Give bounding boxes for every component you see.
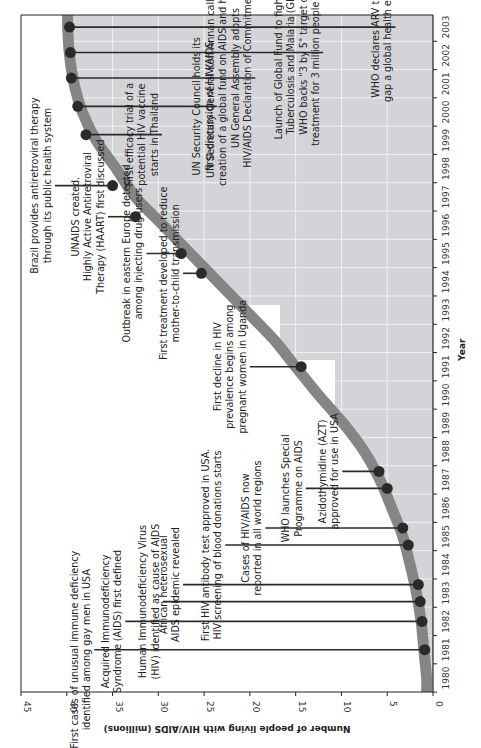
event-label-line: WHO backs "3 by 5" target or ARV (298, 0, 309, 135)
event-label-line: reported in all world regions (252, 460, 263, 595)
year-tick-label: 1992 (441, 327, 451, 350)
year-tick-label: 1994 (441, 270, 451, 293)
event-label-line: prevalence begins among (224, 305, 235, 429)
event-dot (65, 47, 76, 58)
value-tick-label: 10 (342, 701, 352, 713)
value-tick-label: 20 (251, 701, 261, 713)
event-label-line: potential HIV vaccine (136, 83, 147, 185)
year-axis-title: Year (457, 338, 467, 362)
event-label-line: WHO launches Special (280, 434, 291, 542)
event-label-line: through its public health system (42, 108, 53, 263)
event-dot (81, 129, 92, 140)
event-dot (72, 101, 83, 112)
event-label-line: First treatment developed to reduce (158, 187, 169, 360)
value-tick-label: 25 (205, 701, 215, 712)
event-label-line: First decline in HIV (212, 322, 223, 412)
event-label-line: Tuberculosis and Malaria (GFATM). (285, 0, 296, 135)
year-tick-label: 1990 (441, 383, 451, 406)
event-label-line: First HIV antibody test approved in USA. (200, 449, 211, 641)
event-label: Acquired ImmunodeficiencySyndrome (AIDS)… (100, 550, 124, 693)
year-tick-label: 1997 (441, 185, 451, 208)
event-label-line: Programme on AIDS (293, 440, 304, 537)
event-label-line: Cases of HIV/AIDS now (240, 473, 251, 583)
event-dot (176, 248, 187, 259)
year-tick-label: 1984 (441, 553, 451, 576)
event-dot (64, 22, 75, 33)
event-label: First cases of unusual immune deficiency… (69, 550, 93, 748)
event-label-line: among injecting drug users (133, 188, 144, 320)
event-label-line: Acquired Immunodeficiency (100, 554, 111, 688)
event-label-line: approved for use in USA (329, 413, 340, 530)
event-dot (415, 596, 426, 607)
event-label-line: First cases of unusual immune deficiency (69, 550, 80, 748)
event-label: Launch of Global Fund to fight AIDS,Tube… (273, 0, 322, 146)
event-label: Azidothymidine (AZT)approved for use in … (317, 413, 341, 530)
event-label: African heterosexualAIDS epidemic reveal… (158, 527, 182, 642)
event-label-line: Outbreak in eastern Europe detected (121, 164, 132, 342)
event-dot (397, 523, 408, 534)
event-label-line: starts in Thailand (149, 93, 160, 176)
value-tick-label: 40 (68, 701, 78, 713)
event-dot (130, 211, 141, 222)
event-label-line: Launch of Global Fund to fight AIDS, (273, 0, 284, 139)
event-label-line: Highly Active Antiretroviral (82, 152, 93, 281)
year-tick-label: 1986 (441, 496, 451, 519)
event-dot (382, 483, 393, 494)
value-tick-label: 30 (159, 701, 169, 713)
event-label-line: HIV/AIDS Declaration of Commitment (242, 0, 253, 168)
year-tick-label: 1988 (441, 440, 451, 463)
event-dot (413, 579, 424, 590)
value-tick-label: 35 (114, 701, 124, 712)
year-tick-label: 1999 (441, 129, 451, 152)
event-label-line: mother-to-child transmission (170, 204, 181, 342)
event-label: Cases of HIV/AIDS nowreported in all wor… (240, 460, 264, 595)
event-label-line: HIV screening of blood donations starts (212, 450, 223, 639)
chart-canvas: First cases of unusual immune deficiency… (0, 0, 481, 748)
event-label-line: identified among gay men in USA (81, 569, 92, 731)
event-label-line: UNAIDS created. (70, 177, 81, 257)
year-tick-label: 2002 (441, 44, 451, 67)
year-tick-label: 1987 (441, 468, 451, 491)
event-label-line: AIDS epidemic revealed (170, 527, 181, 642)
year-tick-label: 2001 (441, 72, 451, 95)
year-tick-label: 1996 (441, 213, 451, 236)
year-tick-label: 1983 (441, 582, 451, 605)
event-dot (419, 644, 430, 655)
event-label-line: First efficacy trial of a (124, 83, 135, 187)
value-axis-title: Number of people living with HIV/AIDS (m… (104, 724, 351, 734)
year-tick-label: 1995 (441, 242, 451, 265)
value-tick-label: 45 (22, 701, 32, 712)
year-tick-label: 1991 (441, 355, 451, 378)
value-tick-label: 5 (388, 701, 398, 707)
event-dot (107, 180, 118, 191)
event-dot (403, 539, 414, 550)
event-label-line: Syndrome (AIDS) first defined (112, 550, 123, 693)
event-label: Outbreak in eastern Europe detectedamong… (121, 164, 145, 342)
value-tick-label: 0 (434, 701, 444, 707)
event-dot (66, 73, 77, 84)
hiv-aids-timeline-chart: First cases of unusual immune deficiency… (0, 0, 481, 748)
event-label-line: pregnant women in Uganda (237, 300, 248, 434)
year-tick-label: 1993 (441, 299, 451, 322)
event-label-line: Therapy (HAART) first discussed (95, 140, 106, 295)
event-label: First HIV antibody test approved in USA.… (200, 449, 224, 641)
year-tick-label: 2003 (441, 16, 451, 39)
event-label-line: UN General Assembly adopts (230, 8, 241, 148)
event-label: Brazil provides antiretroviral therapyth… (29, 97, 53, 274)
year-tick-label: 1981 (441, 638, 451, 661)
event-label-line: Azidothymidine (AZT) (317, 419, 328, 523)
event-label: First treatment developed to reducemothe… (158, 187, 182, 360)
event-dot (373, 466, 384, 477)
value-tick-label: 15 (297, 701, 307, 712)
event-label: WHO launches SpecialProgramme on AIDS (280, 434, 304, 542)
year-tick-label: 1980 (441, 666, 451, 689)
event-label-line: Human Immunodeficiency Virus (137, 525, 148, 678)
year-tick-label: 1989 (441, 412, 451, 435)
year-tick-label: 2000 (441, 100, 451, 123)
event-dot (417, 616, 428, 627)
event-dot (296, 361, 307, 372)
event-label-line: treatment for 3 million people by 2005 (310, 0, 321, 146)
year-tick-label: 1998 (441, 157, 451, 180)
event-label: First efficacy trial of apotential HIV v… (124, 83, 160, 187)
event-dot (196, 268, 207, 279)
